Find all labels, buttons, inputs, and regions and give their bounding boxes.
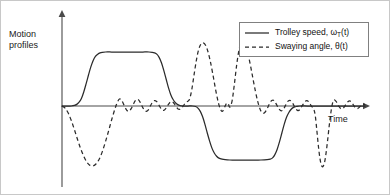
y-axis-arrow-icon — [59, 10, 66, 17]
legend-label-trolley-speed-suffix: (t) — [341, 27, 349, 37]
x-axis-label: Time — [328, 114, 348, 124]
series-group — [62, 41, 365, 166]
series-swaying-angle-line — [62, 41, 365, 166]
y-axis-label: Motion profiles — [9, 29, 59, 51]
y-axis-label-line1: Motion — [9, 29, 59, 40]
legend-swatch-dashed — [244, 42, 270, 52]
legend-label-swaying-angle: Swaying angle, θ(t) — [275, 41, 348, 54]
legend-label-swaying-angle-main: Swaying angle, θ(t) — [275, 41, 348, 51]
legend-item-swaying-angle: Swaying angle, θ(t) — [244, 40, 364, 54]
legend-item-trolley-speed: Trolley speed, ωT(t) — [244, 26, 364, 40]
y-axis-label-line2: profiles — [9, 40, 59, 51]
legend-label-trolley-speed-main: Trolley speed, ω — [275, 27, 337, 37]
legend-box: Trolley speed, ωT(t) Swaying angle, θ(t) — [239, 22, 369, 57]
figure-container: Motion profiles Time Trolley speed, ωT(t… — [0, 0, 390, 195]
legend-label-trolley-speed: Trolley speed, ωT(t) — [275, 27, 349, 40]
legend-swatch-solid — [244, 28, 270, 38]
